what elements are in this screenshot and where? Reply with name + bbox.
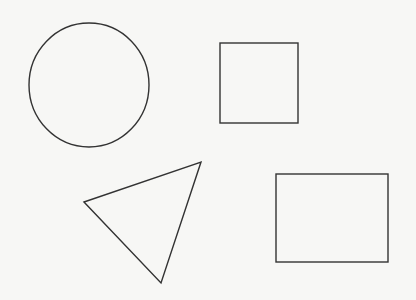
square-shape <box>220 43 298 123</box>
shapes-canvas <box>0 0 416 300</box>
triangle-shape <box>84 162 201 283</box>
circle-shape <box>29 23 149 147</box>
rectangle-shape <box>276 174 388 262</box>
